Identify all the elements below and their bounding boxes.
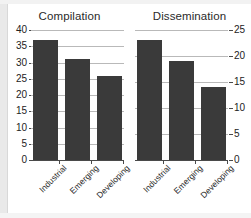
y-tick-mark [229, 134, 233, 135]
bar [65, 59, 90, 160]
bar [137, 40, 162, 160]
y-tick-label: 10 [16, 123, 27, 133]
bar [97, 76, 122, 161]
plot-area-compilation [31, 30, 124, 160]
page-edge-left [0, 0, 8, 218]
bar [201, 87, 226, 160]
chart-panel-dissemination: Dissemination 0510152025 IndustrialEmerg… [130, 4, 249, 214]
x-axis-label: Developing [199, 163, 236, 200]
x-axis-label: Developing [95, 163, 132, 200]
y-tick-label: 25 [16, 74, 27, 84]
x-axis-label: Industrial [37, 163, 68, 194]
y-tick-label: 20 [234, 51, 245, 61]
y-tick-label: 30 [16, 58, 27, 68]
plot-area-dissemination [135, 30, 228, 160]
y-tick-label: 15 [234, 77, 245, 87]
y-tick-mark [229, 82, 233, 83]
x-axis-labels-compilation: IndustrialEmergingDeveloping [31, 163, 131, 211]
y-tick-label: 15 [16, 106, 27, 116]
y-tick-label: 0 [21, 155, 27, 165]
y-tick-label: 20 [16, 90, 27, 100]
y-axis-compilation: 0510152025303540 [8, 30, 30, 160]
x-axis-label: Industrial [141, 163, 172, 194]
y-tick-label: 5 [234, 129, 240, 139]
bars-dissemination [135, 30, 228, 160]
y-tick-label: 5 [21, 139, 27, 149]
bar [33, 40, 58, 160]
y-tick-label: 40 [16, 25, 27, 35]
y-tick-mark [229, 108, 233, 109]
x-axis-labels-dissemination: IndustrialEmergingDeveloping [135, 163, 235, 211]
chart-panels: Compilation 0510152025303540 IndustrialE… [8, 4, 251, 214]
y-tick-mark [229, 160, 233, 161]
y-tick-label: 10 [234, 103, 245, 113]
y-tick-mark [229, 56, 233, 57]
chart-title-dissemination: Dissemination [130, 10, 251, 22]
y-tick-label: 35 [16, 41, 27, 51]
y-tick-label: 25 [234, 25, 245, 35]
bars-compilation [31, 30, 124, 160]
bar [169, 61, 194, 160]
chart-title-compilation: Compilation [10, 10, 129, 22]
y-axis-dissemination: 0510152025 [229, 30, 251, 160]
bar-chart-figure: Compilation 0510152025303540 IndustrialE… [8, 4, 251, 214]
y-tick-mark [229, 30, 233, 31]
chart-panel-compilation: Compilation 0510152025303540 IndustrialE… [10, 4, 129, 214]
